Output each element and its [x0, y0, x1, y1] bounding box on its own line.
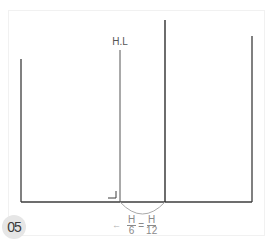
- perspective-diagram: [0, 0, 271, 243]
- fraction-numerator: H: [147, 215, 156, 226]
- fraction-denominator: 12: [146, 226, 157, 236]
- right-angle-icon: [108, 191, 116, 198]
- fraction-denominator: 6: [129, 226, 135, 236]
- fraction-numerator: H: [127, 215, 136, 226]
- step-number-badge: 05: [2, 215, 26, 239]
- fraction-h-over-12: H 12: [146, 215, 157, 236]
- equals-sign: =: [138, 220, 144, 231]
- ratio-formula: ← H 6 = H 12: [112, 212, 157, 238]
- horizon-line-label: H.L: [108, 36, 132, 47]
- fraction-h-over-6: H 6: [127, 215, 136, 236]
- left-arrow-icon: ←: [112, 220, 121, 230]
